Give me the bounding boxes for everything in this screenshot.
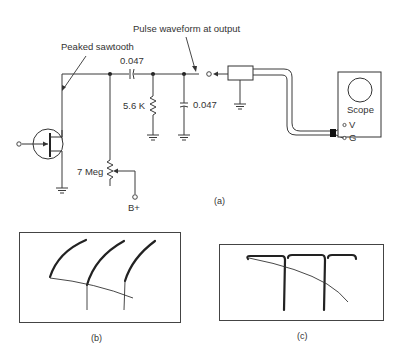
- caption-a: (a): [214, 196, 225, 206]
- drain-wire: [62, 74, 128, 145]
- scope-screen-icon: [348, 78, 372, 102]
- caption-c: (c): [297, 331, 308, 341]
- scope-v-terminal: [343, 123, 346, 126]
- scope-trace-frame: [20, 233, 181, 323]
- coupling-capacitor-plate-curved: [133, 69, 134, 79]
- pulse-waveform-label: Pulse waveform at output: [133, 23, 241, 34]
- output-terminal: [207, 72, 212, 77]
- ground-icon: [56, 188, 68, 193]
- circuit-schematic: Peaked sawtooth Pulse waveform at output…: [17, 23, 381, 213]
- scope-g-label: G: [349, 132, 356, 143]
- potentiometer-wiper: [116, 171, 135, 194]
- scope-v-label: V: [349, 119, 356, 130]
- transistor-icon: [22, 129, 63, 159]
- coupling-capacitor-value: 0.047: [120, 55, 144, 66]
- probe-tip-icon: [213, 72, 218, 77]
- peaked-sawtooth-label: Peaked sawtooth: [61, 41, 134, 52]
- resistor-value: 5.6 K: [123, 100, 146, 111]
- shunt-capacitor-value: 0.047: [193, 99, 217, 110]
- resistor-icon: [150, 96, 156, 115]
- probe-cable-outer: [253, 69, 330, 131]
- supply-label: B+: [128, 202, 140, 213]
- waveform-panel-b: (b): [20, 233, 181, 344]
- scope-label: Scope: [347, 104, 374, 115]
- potentiometer-value: 7 Meg: [77, 166, 103, 177]
- ground-icon: [178, 135, 190, 140]
- peaked-sawtooth-arrow: [64, 56, 86, 88]
- arrowhead-icon: [192, 66, 197, 72]
- pulse-waveform-arrow: [186, 37, 195, 69]
- gate-input-terminal: [17, 142, 21, 146]
- figure-canvas: Peaked sawtooth Pulse waveform at output…: [0, 0, 402, 360]
- wiper-arrow-icon: [113, 169, 118, 174]
- waveform-panel-c: (c): [220, 245, 384, 342]
- cable-connector: [330, 129, 336, 137]
- b-plus-terminal: [133, 195, 138, 200]
- pulse-drop-1: [284, 260, 285, 310]
- probe-body: [228, 66, 253, 80]
- caption-b: (b): [91, 333, 102, 343]
- potentiometer-icon: [107, 160, 113, 179]
- ground-icon: [234, 104, 246, 109]
- ground-icon: [147, 135, 159, 140]
- scope-g-terminal: [343, 136, 346, 139]
